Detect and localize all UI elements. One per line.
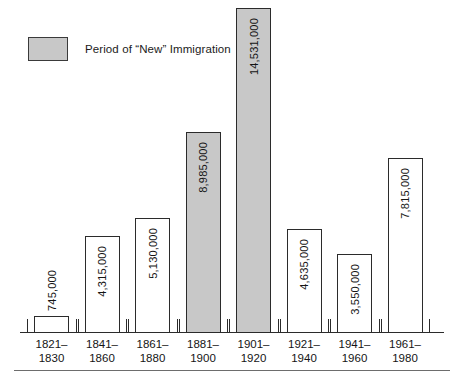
axis-tick [330,319,331,332]
bar-value-label: 7,815,000 [399,168,411,219]
axis-tick [429,319,430,332]
category-label-line: 1940 [276,351,332,365]
category-label-line: 1880 [125,351,181,365]
category-label-line: 1841– [74,337,130,351]
bar-value-label: 3,550,000 [349,264,361,315]
bar-value-label: 4,315,000 [96,246,108,297]
plot-area: 745,0004,315,0005,130,0008,985,00014,531… [0,0,464,333]
category-label: 1881–1900 [175,337,231,365]
category-label-line: 1980 [377,351,433,365]
category-label-line: 1961– [377,337,433,351]
category-label: 1861–1880 [125,337,181,365]
bar-value-label: 5,130,000 [147,228,159,279]
category-label: 1841–1860 [74,337,130,365]
bar-1941-1960: 3,550,000 [337,254,372,333]
category-label-line: 1881– [175,337,231,351]
bar-value-label: 4,635,000 [298,239,310,290]
category-label-line: 1960 [327,351,383,365]
axis-tick [278,319,279,332]
axis-tick [179,319,180,332]
category-label-line: 1900 [175,351,231,365]
axis-tick [27,319,28,332]
axis-tick [76,319,77,332]
x-axis-line [20,332,444,333]
axis-tick [381,319,382,332]
category-label: 1921–1940 [276,337,332,365]
bottom-rule [14,370,450,371]
category-label-line: 1920 [226,351,282,365]
category-label: 1821–1830 [24,337,80,365]
bar-1921-1940: 4,635,000 [287,229,322,333]
axis-tick [78,319,79,332]
category-label-line: 1830 [24,351,80,365]
bar-1821-1830: 745,000 [34,316,69,333]
category-label-line: 1861– [125,337,181,351]
bar-value-label: 14,531,000 [248,18,260,75]
bar-1841-1860: 4,315,000 [85,236,120,333]
immigration-bar-chart: Period of “New” Immigration 745,0004,315… [0,0,464,378]
x-axis-category-labels: 1821–18301841–18601861–18801881–19001901… [0,337,464,370]
axis-tick [128,319,129,332]
category-label: 1901–1920 [226,337,282,365]
category-label: 1961–1980 [377,337,433,365]
axis-tick [126,319,127,332]
bar-1881-1900: 8,985,000 [186,132,221,333]
bar-value-label: 745,000 [46,270,58,311]
bar-value-label: 8,985,000 [197,142,209,193]
axis-tick [177,319,178,332]
axis-tick [379,319,380,332]
bar-1901-1920: 14,531,000 [236,8,271,333]
category-label-line: 1860 [74,351,130,365]
category-label-line: 1921– [276,337,332,351]
bar-1861-1880: 5,130,000 [135,218,170,333]
bar-1961-1980: 7,815,000 [388,158,423,333]
axis-tick [280,319,281,332]
axis-tick [229,319,230,332]
axis-tick [227,319,228,332]
category-label: 1941–1960 [327,337,383,365]
category-label-line: 1941– [327,337,383,351]
axis-tick [328,319,329,332]
category-label-line: 1901– [226,337,282,351]
category-label-line: 1821– [24,337,80,351]
